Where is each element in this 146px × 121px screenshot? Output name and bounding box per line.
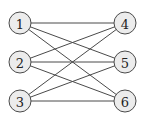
node-6: 6 bbox=[114, 90, 136, 112]
node-label: 4 bbox=[121, 17, 129, 32]
node-5: 5 bbox=[114, 51, 136, 73]
edges bbox=[20, 23, 125, 101]
node-label: 5 bbox=[121, 56, 129, 71]
node-2: 2 bbox=[9, 51, 31, 73]
bipartite-graph: 123456 bbox=[0, 0, 146, 121]
node-1: 1 bbox=[9, 12, 31, 34]
node-label: 1 bbox=[16, 17, 24, 32]
node-label: 6 bbox=[121, 95, 129, 110]
node-label: 3 bbox=[16, 95, 24, 110]
node-3: 3 bbox=[9, 90, 31, 112]
node-4: 4 bbox=[114, 12, 136, 34]
node-label: 2 bbox=[16, 56, 24, 71]
